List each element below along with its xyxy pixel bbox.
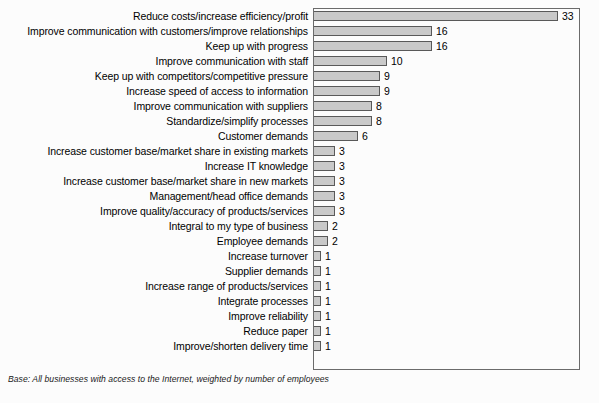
category-label: Management/head office demands	[150, 189, 309, 204]
bar-row: Customer demands6	[0, 129, 599, 144]
category-label: Integral to my type of business	[169, 219, 308, 234]
bar-row: Increase turnover1	[0, 249, 599, 264]
bar	[313, 161, 335, 171]
category-label: Increase customer base/market share in e…	[47, 144, 308, 159]
bar-row: Keep up with progress16	[0, 39, 599, 54]
bar-value-label: 1	[325, 279, 331, 294]
bar	[313, 266, 321, 276]
bar-value-label: 3	[339, 159, 345, 174]
category-label: Improve communication with suppliers	[134, 99, 308, 114]
bar-value-label: 2	[332, 219, 338, 234]
bar-value-label: 3	[339, 204, 345, 219]
category-label: Improve communication with customers/imp…	[27, 24, 308, 39]
bar	[313, 191, 335, 201]
bar-value-label: 2	[332, 234, 338, 249]
bar	[313, 206, 335, 216]
bar-value-label: 1	[325, 324, 331, 339]
chart-page: Reduce costs/increase efficiency/profit3…	[0, 0, 599, 403]
bar-row: Employee demands2	[0, 234, 599, 249]
bar-row: Reduce paper1	[0, 324, 599, 339]
bar-value-label: 3	[339, 174, 345, 189]
category-label: Keep up with progress	[206, 39, 308, 54]
category-label: Increase customer base/market share in n…	[63, 174, 308, 189]
bar-row: Reduce costs/increase efficiency/profit3…	[0, 9, 599, 24]
bar-value-label: 3	[339, 189, 345, 204]
bar-row: Increase customer base/market share in e…	[0, 144, 599, 159]
category-label: Employee demands	[217, 234, 308, 249]
category-label: Integrate processes	[218, 294, 308, 309]
bar-value-label: 1	[325, 339, 331, 354]
bar-row: Integrate processes1	[0, 294, 599, 309]
bar-row: Improve communication with customers/imp…	[0, 24, 599, 39]
bar-row: Standardize/simplify processes8	[0, 114, 599, 129]
bar-value-label: 9	[384, 84, 390, 99]
bar-row: Increase range of products/services1	[0, 279, 599, 294]
bar-row: Improve communication with suppliers8	[0, 99, 599, 114]
category-label: Standardize/simplify processes	[166, 114, 308, 129]
bar-value-label: 1	[325, 309, 331, 324]
bar-value-label: 8	[376, 114, 382, 129]
bar-rows: Reduce costs/increase efficiency/profit3…	[0, 9, 599, 354]
category-label: Increase IT knowledge	[205, 159, 308, 174]
chart-footnote: Base: All businesses with access to the …	[8, 374, 329, 384]
bar-value-label: 1	[325, 294, 331, 309]
bar	[313, 251, 321, 261]
bar-chart: Reduce costs/increase efficiency/profit3…	[0, 0, 599, 375]
bar	[313, 326, 321, 336]
bar-value-label: 8	[376, 99, 382, 114]
bar	[313, 281, 321, 291]
category-label: Improve quality/accuracy of products/ser…	[100, 204, 308, 219]
bar	[313, 101, 372, 111]
bar	[313, 236, 328, 246]
bar-value-label: 6	[362, 129, 368, 144]
category-label: Improve/shorten delivery time	[173, 339, 308, 354]
bar	[313, 26, 432, 36]
category-label: Increase speed of access to information	[126, 84, 308, 99]
bar	[313, 341, 321, 351]
bar-row: Supplier demands1	[0, 264, 599, 279]
bar-value-label: 1	[325, 249, 331, 264]
bar-row: Improve reliability1	[0, 309, 599, 324]
bar	[313, 176, 335, 186]
bar-row: Improve/shorten delivery time1	[0, 339, 599, 354]
category-label: Supplier demands	[225, 264, 308, 279]
bar-value-label: 1	[325, 264, 331, 279]
bar-value-label: 9	[384, 69, 390, 84]
category-label: Improve communication with staff	[156, 54, 308, 69]
bar	[313, 221, 328, 231]
bar-row: Keep up with competitors/competitive pre…	[0, 69, 599, 84]
bar	[313, 71, 380, 81]
bar	[313, 311, 321, 321]
bar-row: Increase speed of access to information9	[0, 84, 599, 99]
bar	[313, 296, 321, 306]
bar-value-label: 16	[436, 24, 448, 39]
category-label: Increase range of products/services	[145, 279, 308, 294]
category-label: Reduce paper	[243, 324, 308, 339]
bar	[313, 56, 387, 66]
category-label: Improve reliability	[228, 309, 308, 324]
bar-row: Improve communication with staff10	[0, 54, 599, 69]
bar	[313, 146, 335, 156]
bar	[313, 116, 372, 126]
bar-value-label: 3	[339, 144, 345, 159]
bar-value-label: 10	[391, 54, 403, 69]
category-label: Increase turnover	[228, 249, 308, 264]
bar-row: Management/head office demands3	[0, 189, 599, 204]
category-label: Reduce costs/increase efficiency/profit	[133, 9, 308, 24]
bar	[313, 11, 558, 21]
bar	[313, 41, 432, 51]
bar	[313, 86, 380, 96]
bar-row: Integral to my type of business2	[0, 219, 599, 234]
category-label: Customer demands	[218, 129, 308, 144]
bar	[313, 131, 358, 141]
bar-row: Improve quality/accuracy of products/ser…	[0, 204, 599, 219]
bar-value-label: 33	[562, 9, 574, 24]
bar-row: Increase customer base/market share in n…	[0, 174, 599, 189]
category-label: Keep up with competitors/competitive pre…	[95, 69, 308, 84]
bar-row: Increase IT knowledge3	[0, 159, 599, 174]
bar-value-label: 16	[436, 39, 448, 54]
